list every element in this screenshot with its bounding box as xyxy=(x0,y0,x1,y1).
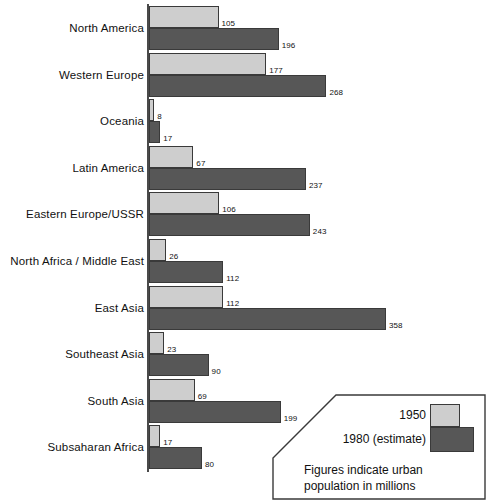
legend-note: Figures indicate urban population in mil… xyxy=(304,462,423,494)
bar-value-label: 90 xyxy=(212,367,221,376)
category-label: North America xyxy=(0,22,144,34)
legend-swatch-1950 xyxy=(430,404,460,427)
category-label: Western Europe xyxy=(0,69,144,81)
category-label: North Africa / Middle East xyxy=(0,255,144,267)
bar-value-label: 268 xyxy=(329,88,343,97)
chart-legend: 1950 1980 (estimate) Figures indicate ur… xyxy=(272,394,486,500)
bar-value-label: 112 xyxy=(226,299,239,308)
bar-value-label: 243 xyxy=(313,227,327,236)
bar-1950 xyxy=(149,53,266,75)
bar-1980-estimate- xyxy=(149,168,306,190)
bar-1950 xyxy=(149,379,195,401)
legend-label-1950: 1950 xyxy=(312,408,426,422)
chart-row: Southeast Asia2390 xyxy=(0,332,489,379)
legend-swatch-1980 xyxy=(430,427,474,452)
bar-value-label: 80 xyxy=(205,460,214,469)
bar-value-label: 23 xyxy=(167,345,176,354)
bar-1980-estimate- xyxy=(149,214,310,236)
bar-value-label: 17 xyxy=(163,134,172,143)
bar-value-label: 17 xyxy=(163,438,172,447)
bar-1950 xyxy=(149,239,166,261)
bar-value-label: 8 xyxy=(157,112,162,121)
bar-1950 xyxy=(149,425,160,447)
bar-1980-estimate- xyxy=(149,354,209,376)
bar-1950 xyxy=(149,146,193,168)
category-label: East Asia xyxy=(0,302,144,314)
bar-1980-estimate- xyxy=(149,75,326,97)
bar-value-label: 196 xyxy=(282,41,296,50)
bar-1980-estimate- xyxy=(149,261,223,283)
chart-row: Latin America67237 xyxy=(0,146,489,193)
category-label: Oceania xyxy=(0,115,144,127)
bar-1980-estimate- xyxy=(149,28,279,50)
bar-1950 xyxy=(149,286,223,308)
category-label: South Asia xyxy=(0,395,144,407)
bar-value-label: 106 xyxy=(222,205,236,214)
chart-row: Western Europe177268 xyxy=(0,53,489,100)
bar-value-label: 237 xyxy=(309,181,323,190)
bar-chart: North America105196Western Europe177268O… xyxy=(0,0,489,504)
bar-value-label: 26 xyxy=(169,252,178,261)
bar-1950 xyxy=(149,6,219,28)
bar-1950 xyxy=(149,192,219,214)
bar-1980-estimate- xyxy=(149,447,202,469)
bar-value-label: 112 xyxy=(226,274,239,283)
chart-row: Oceania817 xyxy=(0,99,489,146)
bar-1950 xyxy=(149,99,154,121)
legend-label-1980: 1980 (estimate) xyxy=(282,432,426,446)
category-label: Southeast Asia xyxy=(0,348,144,360)
bar-1980-estimate- xyxy=(149,121,160,143)
chart-row: North America105196 xyxy=(0,6,489,53)
category-label: Eastern Europe/USSR xyxy=(0,208,144,220)
category-label: Subsaharan Africa xyxy=(0,441,144,453)
category-label: Latin America xyxy=(0,162,144,174)
bar-value-label: 105 xyxy=(222,19,236,28)
chart-row: East Asia112358 xyxy=(0,286,489,333)
bar-value-label: 177 xyxy=(269,66,283,75)
bar-value-label: 358 xyxy=(389,321,403,330)
bar-1980-estimate- xyxy=(149,401,281,423)
bar-1980-estimate- xyxy=(149,308,386,330)
bar-1950 xyxy=(149,332,164,354)
chart-row: Eastern Europe/USSR106243 xyxy=(0,192,489,239)
chart-row: North Africa / Middle East26112 xyxy=(0,239,489,286)
bar-value-label: 69 xyxy=(198,392,207,401)
bar-value-label: 67 xyxy=(196,159,205,168)
